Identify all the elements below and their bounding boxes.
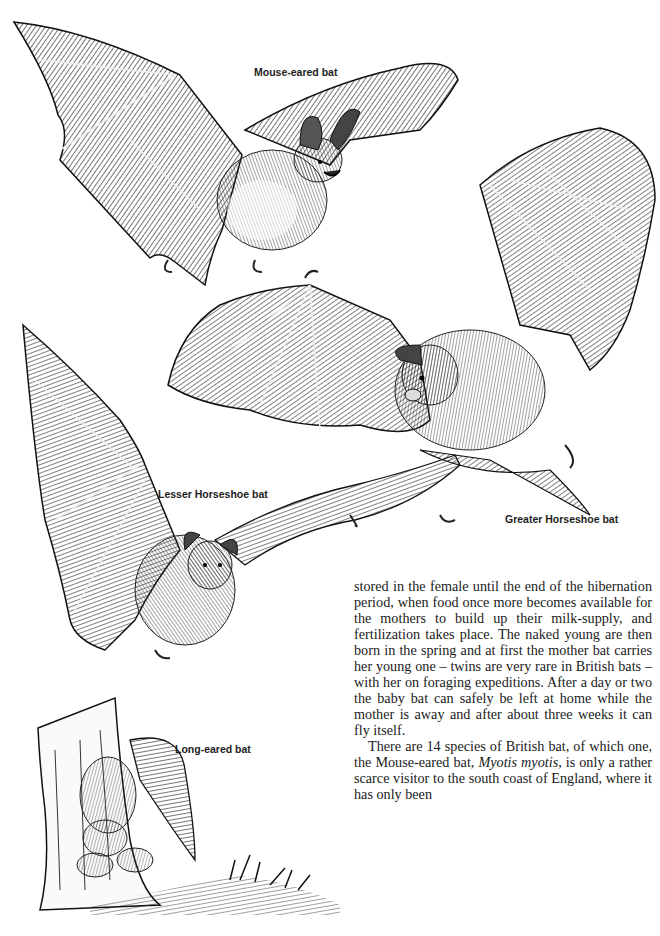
- long-eared-bat-label: Long-eared bat: [175, 743, 251, 755]
- species-latin-name: Myotis myotis: [478, 754, 558, 770]
- paragraph-1: stored in the female until the end of th…: [354, 578, 652, 738]
- body-text: stored in the female until the end of th…: [354, 578, 652, 802]
- long-eared-bat-illustration: [30, 690, 360, 920]
- mouse-eared-bat-label: Mouse-eared bat: [254, 66, 337, 78]
- greater-horseshoe-bat-label: Greater Horseshoe bat: [505, 513, 618, 525]
- paragraph-2: There are 14 species of British bat, of …: [354, 738, 652, 802]
- lesser-horseshoe-bat-label: Lesser Horseshoe bat: [158, 488, 268, 500]
